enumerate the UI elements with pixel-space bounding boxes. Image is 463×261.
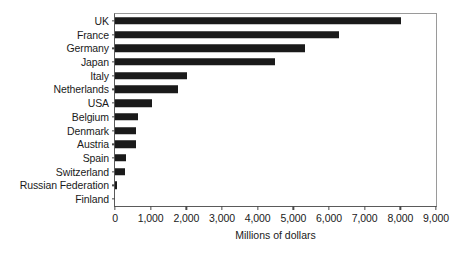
category-label: France: [77, 29, 109, 41]
x-axis-tick-label: 6,000: [316, 212, 342, 224]
category-label: Russian Federation: [20, 179, 109, 191]
category-label: Netherlands: [53, 83, 109, 95]
category-label: Germany: [67, 42, 109, 54]
bar-row: Japan: [115, 55, 436, 69]
x-axis-tick-label: 9,000: [423, 212, 449, 224]
x-axis-tick-label: 3,000: [209, 212, 235, 224]
x-axis-tick: [114, 206, 115, 210]
bar-row: Denmark: [115, 123, 436, 137]
bar-row: USA: [115, 96, 436, 110]
bar: [115, 86, 178, 94]
category-label: Switzerland: [56, 166, 109, 178]
bar-row: Italy: [115, 69, 436, 83]
category-label: Finland: [75, 193, 109, 205]
y-axis-tick: [112, 198, 116, 199]
bar: [115, 182, 117, 190]
x-axis-tick-label: 7,000: [352, 212, 378, 224]
x-axis-tick: [400, 206, 401, 210]
x-axis-tick: [364, 206, 365, 210]
x-axis-tick: [150, 206, 151, 210]
bar-row: Belgium: [115, 110, 436, 124]
x-axis-tick: [435, 206, 436, 210]
x-axis-tick: [328, 206, 329, 210]
bar: [115, 168, 125, 176]
bar-row: UK: [115, 14, 436, 28]
bar: [115, 154, 126, 162]
category-label: Japan: [81, 56, 109, 68]
bar: [115, 127, 136, 135]
bar: [115, 58, 275, 66]
bar: [115, 99, 152, 107]
category-label: Spain: [83, 152, 109, 164]
bar: [115, 45, 305, 53]
bar: [115, 17, 401, 25]
bar-row: France: [115, 27, 436, 41]
x-axis-tick: [186, 206, 187, 210]
category-label: Italy: [90, 70, 109, 82]
x-axis-tick: [293, 206, 294, 210]
bar-row: Germany: [115, 41, 436, 55]
bar: [115, 141, 136, 149]
bar-row: Austria: [115, 137, 436, 151]
bar-row: Spain: [115, 151, 436, 165]
x-axis-tick-label: 4,000: [245, 212, 271, 224]
bar-row: Switzerland: [115, 165, 436, 179]
bar-row: Netherlands: [115, 82, 436, 96]
category-label: Denmark: [67, 125, 109, 137]
x-axis-title: Millions of dollars: [235, 229, 316, 241]
bar-chart-figure: UKFranceGermanyJapanItalyNetherlandsUSAB…: [0, 0, 463, 261]
plot-area: UKFranceGermanyJapanItalyNetherlandsUSAB…: [114, 13, 437, 207]
category-label: USA: [88, 97, 109, 109]
category-label: Belgium: [72, 111, 109, 123]
bar-row: Finland: [115, 192, 436, 206]
x-axis-tick-label: 5,000: [280, 212, 306, 224]
x-axis-tick: [257, 206, 258, 210]
bar-row: Russian Federation: [115, 178, 436, 192]
x-axis-tick-label: 8,000: [387, 212, 413, 224]
x-axis-tick-label: 1,000: [138, 212, 164, 224]
bar: [115, 72, 187, 80]
x-axis-tick-label: 0: [112, 212, 118, 224]
bar: [115, 31, 339, 39]
bar: [115, 113, 138, 121]
category-label: UK: [95, 15, 109, 27]
x-axis-tick-label: 2,000: [173, 212, 199, 224]
category-label: Austria: [77, 138, 109, 150]
x-axis-tick: [221, 206, 222, 210]
